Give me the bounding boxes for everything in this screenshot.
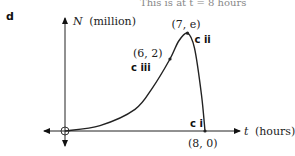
y-axis-label: N (million) (72, 15, 136, 28)
x-axis-label: t (hours) (244, 125, 295, 138)
y-axis-unit: (million) (89, 15, 136, 28)
point-8-0 (203, 129, 206, 132)
annotation-8-0: (8, 0) (188, 137, 218, 150)
point-6-2 (168, 57, 171, 60)
top-cut-text: This is at t = 8 hours (140, 0, 246, 8)
chart: This is at t = 8 hours d N (million) t (… (0, 0, 295, 156)
annotation-peak: (7, e) (172, 18, 201, 31)
tag-c-iii: c iii (131, 62, 151, 73)
point-peak (186, 32, 189, 35)
annotation-6-2: (6, 2) (133, 47, 163, 60)
tag-c-ii: c ii (195, 34, 211, 45)
x-axis-unit: (hours) (255, 125, 295, 138)
y-axis-var: N (72, 15, 83, 28)
x-axis-var: t (244, 125, 249, 138)
part-label: d (6, 10, 14, 23)
tag-c-i: c i (190, 118, 203, 129)
